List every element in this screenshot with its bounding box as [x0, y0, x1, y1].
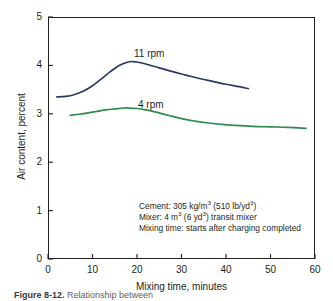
figure-caption-number: Figure 8-12. [14, 290, 65, 300]
y-tick-label-3: 3 [28, 109, 42, 119]
figure-caption-text: Relationship between [67, 290, 153, 300]
y-tick-label-1: 1 [28, 206, 42, 216]
series-label-11-rpm: 11 rpm [134, 48, 164, 59]
figure-air-content-vs-mixing-time: 012345 0102030405060 Mixing time, minute… [0, 0, 333, 301]
annotation-note: Cement: 305 kg/m3 (510 lb/yd3) Mixer: 4 … [139, 201, 301, 235]
y-tick-label-4: 4 [28, 60, 42, 70]
y-axis-title: Air content, percent [16, 72, 27, 202]
series-curve-11-rpm [57, 62, 248, 97]
y-axis-tick-marks [48, 17, 53, 259]
x-tick-label-10: 10 [81, 265, 105, 275]
y-tick-label-5: 5 [28, 12, 42, 22]
annotation-note-line-2: Mixer: 4 m3 (6 yd3) transit mixer [139, 212, 301, 223]
note-line-2-pre: Mixer: 4 m [139, 212, 178, 222]
y-tick-label-0: 0 [28, 254, 42, 264]
x-axis-tick-marks [48, 254, 315, 259]
annotation-note-line-1: Cement: 305 kg/m3 (510 lb/yd3) [139, 201, 301, 212]
series-curve-4-rpm [70, 108, 306, 128]
data-series-group [57, 62, 306, 129]
note-line-2-post: ) transit mixer [206, 212, 257, 222]
note-line-1-post: ) [253, 201, 256, 211]
x-tick-label-20: 20 [125, 265, 149, 275]
x-tick-label-40: 40 [214, 265, 238, 275]
note-line-2-mid: (6 yd [182, 212, 203, 222]
plot-canvas [0, 0, 333, 301]
annotation-note-line-3: Mixing time: starts after charging compl… [139, 223, 301, 234]
figure-caption: Figure 8-12. Relationship between [14, 290, 153, 301]
x-tick-label-50: 50 [259, 265, 283, 275]
note-line-1-pre: Cement: 305 kg/m [139, 201, 207, 211]
note-line-1-mid: (510 lb/yd [211, 201, 250, 211]
x-tick-label-60: 60 [303, 265, 327, 275]
x-tick-label-0: 0 [36, 265, 60, 275]
series-label-4-rpm: 4 rpm [138, 99, 164, 110]
x-tick-label-30: 30 [170, 265, 194, 275]
y-tick-label-2: 2 [28, 157, 42, 167]
